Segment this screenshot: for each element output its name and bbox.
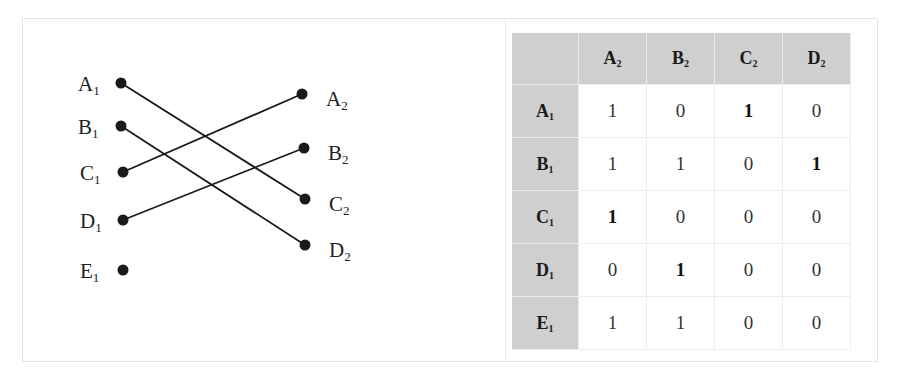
- matrix-row: A11010: [512, 85, 851, 138]
- column-header: B2: [647, 33, 715, 85]
- matrix-header-row: A2 B2 C2 D2: [512, 33, 851, 85]
- matrix-cell: 0: [783, 244, 851, 297]
- column-header: A2: [579, 33, 647, 85]
- matrix-corner-cell: [512, 33, 579, 85]
- node-label-C2: C2: [329, 194, 350, 217]
- edge-A1-C2: [121, 83, 305, 199]
- node-label-C1: C1: [80, 163, 101, 186]
- matrix-cell: 1: [579, 191, 647, 244]
- column-header: C2: [715, 33, 783, 85]
- matrix-cell: 1: [579, 297, 647, 350]
- bipartite-graph: A1B1C1D1E1A2B2C2D2: [0, 0, 505, 384]
- node-label-A2: A2: [326, 89, 348, 112]
- node-dot-A2: [297, 89, 308, 100]
- edge-D1-B2: [123, 148, 304, 220]
- node-dot-B2: [299, 143, 310, 154]
- node-label-E1: E1: [80, 261, 99, 284]
- panel-divider: [505, 18, 506, 362]
- row-header: A1: [512, 85, 579, 138]
- matrix-cell: 0: [715, 191, 783, 244]
- matrix-cell: 1: [579, 138, 647, 191]
- node-dot-D1: [118, 215, 129, 226]
- node-dot-A1: [116, 78, 127, 89]
- node-dot-B1: [116, 121, 127, 132]
- matrix-row: E11100: [512, 297, 851, 350]
- matrix-row: C11000: [512, 191, 851, 244]
- column-header: D2: [783, 33, 851, 85]
- row-header: E1: [512, 297, 579, 350]
- matrix-cell: 0: [579, 244, 647, 297]
- matrix-cell: 0: [715, 297, 783, 350]
- matrix-row: B11101: [512, 138, 851, 191]
- node-dot-C1: [118, 167, 129, 178]
- node-dot-C2: [300, 194, 311, 205]
- matrix-cell: 1: [579, 85, 647, 138]
- node-dot-D2: [300, 240, 311, 251]
- matrix-cell: 0: [647, 191, 715, 244]
- node-label-D1: D1: [80, 211, 102, 234]
- matrix-cell: 0: [783, 297, 851, 350]
- row-header: B1: [512, 138, 579, 191]
- matrix-cell: 1: [647, 244, 715, 297]
- node-label-B2: B2: [328, 143, 349, 166]
- node-label-B1: B1: [78, 117, 99, 140]
- matrix-row: D10100: [512, 244, 851, 297]
- row-header: C1: [512, 191, 579, 244]
- matrix-cell: 1: [715, 85, 783, 138]
- graph-canvas: [0, 0, 505, 384]
- matrix-cell: 0: [783, 85, 851, 138]
- matrix-cell: 1: [647, 297, 715, 350]
- edge-B1-D2: [121, 126, 305, 245]
- adjacency-matrix: A2 B2 C2 D2 A11010B11101C11000D10100E111…: [512, 33, 851, 350]
- matrix-cell: 0: [647, 85, 715, 138]
- matrix-cell: 0: [783, 191, 851, 244]
- node-label-D2: D2: [329, 240, 351, 263]
- matrix-cell: 0: [715, 244, 783, 297]
- node-dot-E1: [118, 265, 129, 276]
- matrix-cell: 0: [715, 138, 783, 191]
- matrix-cell: 1: [647, 138, 715, 191]
- row-header: D1: [512, 244, 579, 297]
- matrix-cell: 1: [783, 138, 851, 191]
- node-label-A1: A1: [78, 74, 100, 97]
